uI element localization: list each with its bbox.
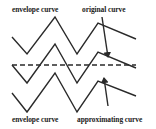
- upper-envelope-label: envelope curve: [12, 6, 58, 13]
- envelope-curve-diagram: envelope curve original curve envelope c…: [0, 0, 156, 129]
- diagram-canvas: [0, 0, 156, 129]
- approximating-curve-arrow: [104, 78, 108, 106]
- approximating-curve-label: approximating curve: [77, 116, 142, 123]
- original-curve-arrow: [102, 17, 108, 57]
- original-curve-label: original curve: [82, 6, 125, 13]
- lower-envelope-label: envelope curve: [12, 116, 58, 123]
- upper-envelope-curve: [12, 17, 136, 54]
